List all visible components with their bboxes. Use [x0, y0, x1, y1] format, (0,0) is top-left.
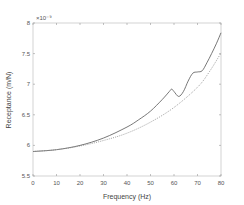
- plot-axes: 010203040506070805.566.577.58: [22, 20, 225, 186]
- x-tick-label: 30: [100, 180, 107, 186]
- x-tick-label: 70: [194, 180, 201, 186]
- y-tick-label: 6: [27, 142, 31, 148]
- x-tick-label: 80: [218, 180, 225, 186]
- x-tick-label: 50: [147, 180, 154, 186]
- x-tick-label: 60: [171, 180, 178, 186]
- y-tick-label: 7.5: [22, 51, 31, 57]
- y-axis-label: Receptance (m/N): [5, 72, 13, 129]
- y-exponent-label: ×10⁻⁹: [36, 15, 52, 21]
- x-axis-label: Frequency (Hz): [103, 193, 151, 201]
- x-tick-label: 40: [124, 180, 131, 186]
- x-tick-label: 0: [31, 180, 35, 186]
- y-tick-label: 8: [27, 20, 31, 26]
- y-tick-label: 7: [27, 81, 31, 87]
- y-tick-label: 5.5: [22, 173, 31, 179]
- series-line-dotted: [33, 53, 221, 152]
- plot-lines: [33, 33, 221, 152]
- x-tick-label: 10: [53, 180, 60, 186]
- x-tick-label: 20: [77, 180, 84, 186]
- plot-frame: [33, 23, 221, 176]
- y-tick-label: 6.5: [22, 112, 31, 118]
- receptance-chart: 010203040506070805.566.577.58 Frequency …: [0, 0, 244, 205]
